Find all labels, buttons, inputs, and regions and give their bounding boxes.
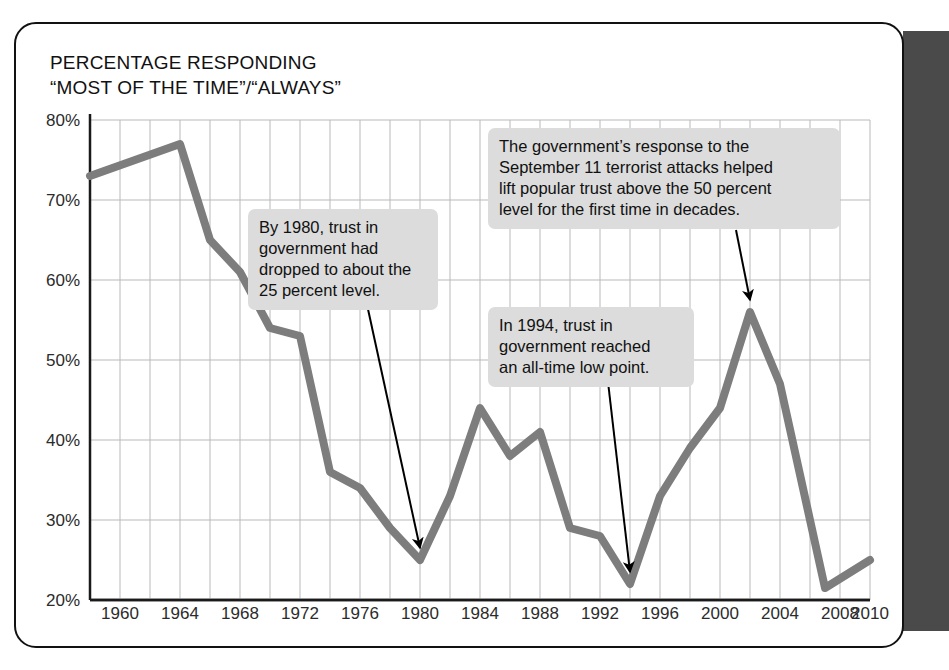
x-tick-label: 2000 bbox=[701, 604, 739, 624]
x-tick-label: 1988 bbox=[521, 604, 559, 624]
x-tick-label: 1972 bbox=[281, 604, 319, 624]
y-tick-label: 20% bbox=[20, 591, 80, 611]
x-tick-label: 1980 bbox=[401, 604, 439, 624]
annotation-callout-september-11: The government’s response to the Septemb… bbox=[488, 128, 840, 229]
page-background: PERCENTAGE RESPONDING “MOST OF THE TIME”… bbox=[0, 0, 949, 670]
page-gutter-band bbox=[903, 31, 949, 631]
y-axis-tick-labels: 20%30%40%50%60%70%80% bbox=[16, 120, 80, 600]
x-tick-label: 2004 bbox=[761, 604, 799, 624]
x-tick-label: 1984 bbox=[461, 604, 499, 624]
y-tick-label: 30% bbox=[20, 511, 80, 531]
x-tick-label: 2010 bbox=[851, 604, 889, 624]
annotation-callout-1980: By 1980, trust in government had dropped… bbox=[248, 209, 438, 310]
x-tick-label: 1964 bbox=[161, 604, 199, 624]
x-tick-label: 1968 bbox=[221, 604, 259, 624]
annotation-callout-1994: In 1994, trust in government reached an … bbox=[488, 307, 694, 387]
y-tick-label: 80% bbox=[20, 111, 80, 131]
x-tick-label: 1960 bbox=[101, 604, 139, 624]
x-tick-label: 1996 bbox=[641, 604, 679, 624]
y-tick-label: 40% bbox=[20, 431, 80, 451]
y-tick-label: 70% bbox=[20, 191, 80, 211]
chart-title: PERCENTAGE RESPONDING “MOST OF THE TIME”… bbox=[50, 50, 341, 100]
y-tick-label: 60% bbox=[20, 271, 80, 291]
x-axis-tick-labels: 1960196419681972197619801984198819921996… bbox=[90, 604, 880, 634]
x-tick-label: 1992 bbox=[581, 604, 619, 624]
y-tick-label: 50% bbox=[20, 351, 80, 371]
x-tick-label: 1976 bbox=[341, 604, 379, 624]
